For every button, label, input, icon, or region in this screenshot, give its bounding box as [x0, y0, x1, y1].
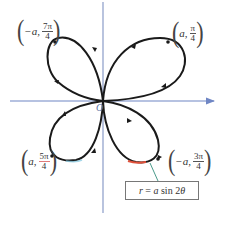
origin-label: O: [96, 102, 103, 113]
equation-box: r = a sin 2θ: [125, 181, 199, 200]
petal-upper-left: [48, 38, 104, 101]
callout-line: [150, 163, 158, 181]
rose-curve: [48, 38, 186, 163]
arrow-icon: [92, 47, 97, 52]
point-label-3pi-4: ( −a, 3π 4 ): [168, 150, 211, 172]
point-label-7pi-4: ( −a, 7π 4 ): [17, 20, 60, 42]
point-label-pi-4: ( a, π 4 ): [172, 22, 203, 44]
petal-lower-right: [103, 101, 159, 162]
arrow-icon: [127, 118, 132, 123]
point-label-5pi-4: ( a, 5π 4 ): [21, 150, 57, 172]
arrow-icon: [161, 83, 166, 88]
arrow-icon: [62, 111, 66, 116]
